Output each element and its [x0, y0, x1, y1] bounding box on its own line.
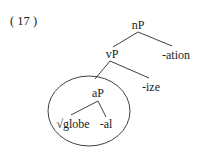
- syntax-tree-diagram: ( 17 ) nP -ation vP -ize aP √globe -al: [0, 0, 200, 155]
- highlight-ellipse: [48, 76, 130, 146]
- edge-nP-vP: [113, 32, 138, 47]
- node-ation: -ation: [162, 48, 190, 62]
- node-aP: aP: [92, 86, 104, 100]
- edge-aP-globe: [71, 101, 98, 115]
- node-al: -al: [100, 117, 113, 131]
- edge-vP-ize: [110, 61, 149, 78]
- node-ize: -ize: [142, 80, 160, 94]
- node-vP: vP: [106, 47, 119, 61]
- node-root-globe: √globe: [56, 117, 89, 131]
- node-nP: nP: [132, 18, 145, 32]
- example-number: ( 17 ): [10, 14, 37, 28]
- edge-nP-ation: [138, 32, 172, 46]
- edge-aP-al: [98, 101, 106, 117]
